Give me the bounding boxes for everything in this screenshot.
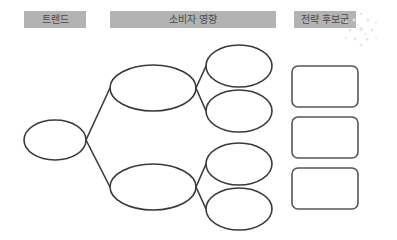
sub-impact-ellipse-2 — [206, 90, 272, 132]
connector-line — [196, 187, 206, 209]
connector-line — [196, 88, 206, 111]
connector-line — [86, 140, 110, 187]
sub-impact-ellipse-1 — [206, 45, 272, 87]
impact-ellipse-2 — [110, 164, 196, 210]
strategy-box-1 — [292, 66, 358, 107]
impact-ellipse-1 — [110, 65, 196, 111]
sub-impact-ellipse-3 — [206, 143, 272, 185]
tree-diagram — [0, 0, 397, 240]
strategy-box-2 — [292, 117, 358, 158]
trend-ellipse — [24, 120, 86, 160]
sub-impact-ellipse-4 — [206, 188, 272, 230]
connector-line — [196, 66, 206, 88]
connector-line — [86, 88, 110, 140]
strategy-box-3 — [292, 168, 358, 209]
connector-line — [196, 164, 206, 187]
